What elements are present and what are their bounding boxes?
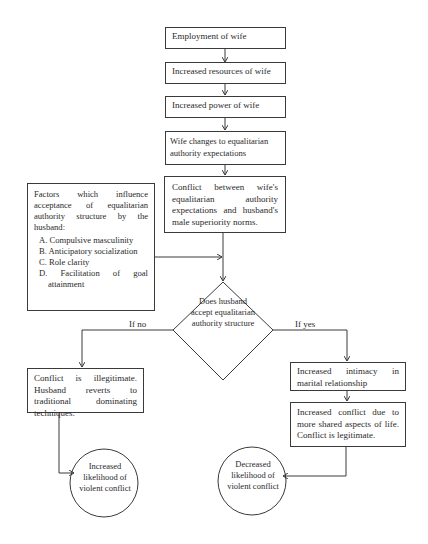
factor-item: D. Facilitation of goal attainment: [34, 268, 148, 290]
box-resources-text: Increased resources of wife: [172, 66, 271, 76]
box-expectations: Wife changes to equalitarian authority e…: [165, 131, 286, 165]
box-illegitimate-text: Conflict is illegitimate. Husband revert…: [34, 373, 137, 418]
factor-item: C. Role clarity: [34, 257, 148, 268]
factors-box: Factors which influence acceptance of eq…: [27, 183, 155, 311]
box-employment-text: Employment of wife: [172, 31, 246, 41]
box-intimacy: Increased intimacy in marital relationsh…: [290, 362, 406, 391]
factors-heading: Factors which influence acceptance of eq…: [34, 189, 148, 233]
label-if-yes: If yes: [295, 319, 315, 329]
box-power-text: Increased power of wife: [172, 100, 259, 110]
box-illegitimate: Conflict is illegitimate. Husband revert…: [27, 368, 144, 413]
box-legitimate-text: Increased conflict due to more shared as…: [297, 407, 399, 440]
box-conflict: Conflict between wife's equalitarian aut…: [164, 176, 286, 233]
factor-item: A. Compulsive masculinity: [34, 235, 148, 246]
decision-text: Does husband accept equalitarian authori…: [190, 296, 256, 329]
box-conflict-text: Conflict between wife's equalitarian aut…: [172, 182, 278, 227]
box-employment: Employment of wife: [165, 27, 286, 49]
box-expectations-text: Wife changes to equalitarian authority e…: [170, 136, 268, 158]
factors-list: A. Compulsive masculinity B. Anticipator…: [34, 235, 148, 290]
box-resources: Increased resources of wife: [165, 62, 286, 84]
outcome-yes-text: Decreased likelihood of violent conflict: [224, 459, 282, 492]
box-legitimate: Increased conflict due to more shared as…: [290, 402, 406, 447]
label-if-no: If no: [129, 319, 146, 329]
outcome-no-text: Increased likelihood of violent conflict: [76, 461, 134, 494]
factor-item: B. Anticipatory socialization: [34, 246, 148, 257]
box-power: Increased power of wife: [165, 96, 286, 118]
box-intimacy-text: Increased intimacy in marital relationsh…: [297, 366, 399, 388]
